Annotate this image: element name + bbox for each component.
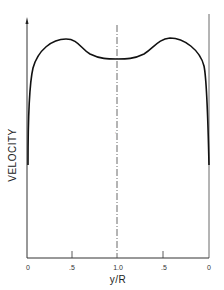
tick-label-3: .5 (161, 264, 167, 271)
center-mark: ‚ (115, 128, 116, 134)
velocity-curve (28, 38, 209, 165)
tick-label-1: .5 (69, 264, 75, 271)
x-axis-label: y/R (110, 274, 127, 285)
y-axis-arrow-icon (26, 17, 29, 24)
y-axis-label: VELOCITY (7, 128, 18, 181)
velocity-profile-chart: 0 .5 1.0 .5 0 y/R VELOCITY ‚ (0, 0, 224, 290)
tick-label-0: 0 (26, 264, 30, 271)
tick-label-2: 1.0 (113, 264, 123, 271)
tick-label-4: 0 (207, 264, 211, 271)
x-ticks (72, 251, 163, 258)
